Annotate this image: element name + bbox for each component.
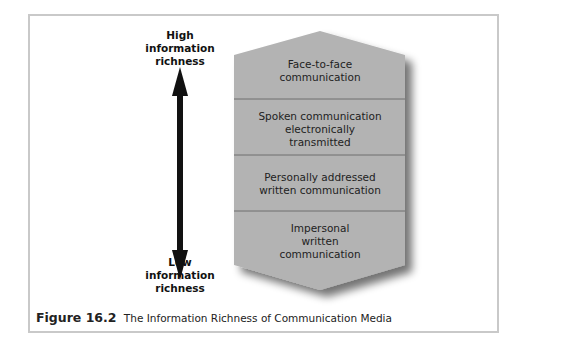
label-line: richness bbox=[125, 55, 235, 68]
label-line: information bbox=[125, 42, 235, 55]
label-line: High bbox=[125, 29, 235, 42]
band-line: communication bbox=[236, 248, 404, 261]
figure-title: The Information Richness of Communicatio… bbox=[124, 312, 392, 324]
band-line: written bbox=[236, 235, 404, 248]
band-line: Impersonal bbox=[236, 222, 404, 235]
band-spoken-electronic: Spoken communication electronically tran… bbox=[236, 110, 404, 149]
low-richness-label: Low information richness bbox=[125, 256, 235, 295]
band-line: Face-to-face bbox=[236, 58, 404, 71]
label-line: information bbox=[125, 269, 235, 282]
band-line: Spoken communication bbox=[236, 110, 404, 123]
figure-caption: Figure 16.2 The Information Richness of … bbox=[36, 310, 392, 325]
band-line: written communication bbox=[236, 184, 404, 197]
band-personally-addressed: Personally addressed written communicati… bbox=[236, 171, 404, 197]
band-line: Personally addressed bbox=[236, 171, 404, 184]
label-line: richness bbox=[125, 282, 235, 295]
band-impersonal-written: Impersonal written communication bbox=[236, 222, 404, 261]
high-richness-label: High information richness bbox=[125, 29, 235, 68]
label-line: Low bbox=[125, 256, 235, 269]
band-line: electronically bbox=[236, 123, 404, 136]
band-line: transmitted bbox=[236, 136, 404, 149]
figure-number: Figure 16.2 bbox=[36, 310, 117, 325]
band-line: communication bbox=[236, 71, 404, 84]
band-face-to-face: Face-to-face communication bbox=[236, 58, 404, 84]
double-arrow-icon bbox=[172, 67, 188, 280]
